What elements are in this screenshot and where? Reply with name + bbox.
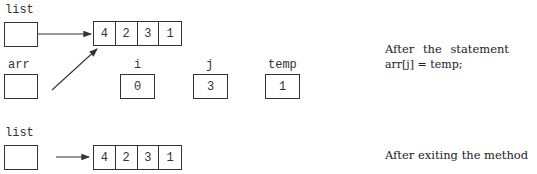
arr-label: arr xyxy=(8,58,30,72)
array-cell: 2 xyxy=(116,146,138,169)
caption-after-exiting: After exiting the method xyxy=(385,148,528,162)
j-label: j xyxy=(206,58,213,72)
array-cell: 4 xyxy=(94,146,116,169)
list-reference-box-bottom xyxy=(4,145,38,170)
i-value-box: 0 xyxy=(120,74,155,99)
j-value-box: 3 xyxy=(193,74,228,99)
list-reference-box xyxy=(4,22,38,47)
temp-label: temp xyxy=(268,58,297,72)
array-box: 4 2 3 1 xyxy=(93,21,182,46)
array-cell: 2 xyxy=(116,22,138,45)
array-cell: 4 xyxy=(94,22,116,45)
list-label-bottom: list xyxy=(5,126,34,140)
arr-reference-box xyxy=(4,74,38,99)
caption-statement-code: arr[j] = temp; xyxy=(385,58,462,71)
list-label: list xyxy=(5,3,34,17)
arr-to-array-arrow xyxy=(52,49,97,90)
i-label: i xyxy=(134,58,141,72)
array-cell: 3 xyxy=(138,146,160,169)
caption-after-statement: After the statement xyxy=(385,42,509,56)
array-box-bottom: 4 2 3 1 xyxy=(93,145,182,170)
array-cell: 3 xyxy=(138,22,160,45)
array-cell: 1 xyxy=(159,146,181,169)
array-cell: 1 xyxy=(159,22,181,45)
temp-value-box: 1 xyxy=(265,74,300,99)
